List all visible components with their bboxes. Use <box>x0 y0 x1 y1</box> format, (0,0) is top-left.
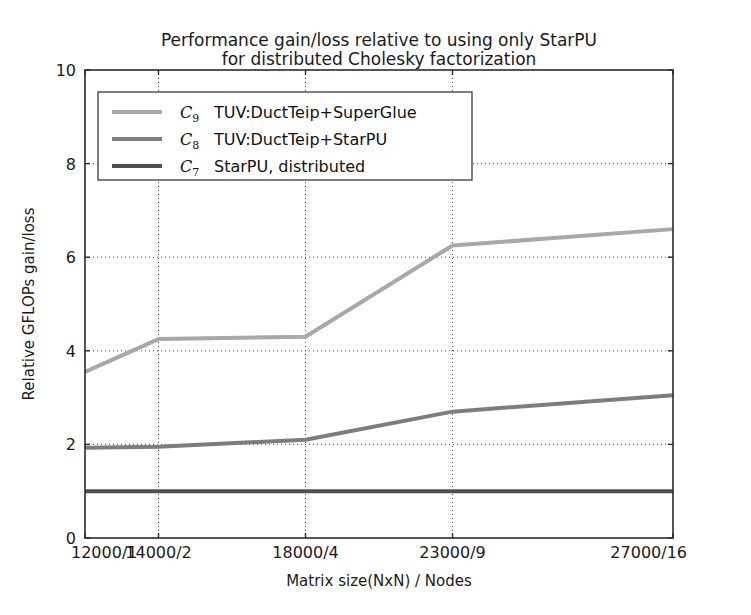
x-tick-label: 18000/4 <box>272 543 338 562</box>
x-tick-label: 14000/2 <box>125 543 191 562</box>
series-line-C8 <box>85 395 673 447</box>
x-tick-label: 23000/9 <box>419 543 485 562</box>
series-group <box>85 229 673 491</box>
y-tick-label: 8 <box>66 155 76 174</box>
performance-gain-loss-line-chart: Performance gain/loss relative to using … <box>0 0 751 615</box>
x-tick-label: 27000/16 <box>610 543 687 562</box>
chart-figure: Performance gain/loss relative to using … <box>0 0 751 615</box>
legend-label-C9: TUV:DuctTeip+SuperGlue <box>213 103 417 122</box>
chart-title-line-2: for distributed Cholesky factorization <box>222 49 537 69</box>
chart-title: Performance gain/loss relative to using … <box>161 30 597 69</box>
x-axis-label: Matrix size(NxN) / Nodes <box>286 572 472 590</box>
y-tick-label: 4 <box>66 342 76 361</box>
y-tick-label: 10 <box>56 61 76 80</box>
legend: C9TUV:DuctTeip+SuperGlueC8TUV:DuctTeip+S… <box>98 92 472 180</box>
legend-subscript-C9: 9 <box>192 112 199 125</box>
chart-title-line-1: Performance gain/loss relative to using … <box>161 30 597 50</box>
legend-label-C8: TUV:DuctTeip+StarPU <box>213 130 387 149</box>
y-tick-label: 2 <box>66 435 76 454</box>
legend-subscript-C8: 8 <box>192 139 199 152</box>
y-axis-label: Relative GFLOPs gain/loss <box>20 207 38 400</box>
legend-subscript-C7: 7 <box>192 166 199 179</box>
y-tick-label: 6 <box>66 248 76 267</box>
legend-label-C7: StarPU, distributed <box>214 157 365 176</box>
